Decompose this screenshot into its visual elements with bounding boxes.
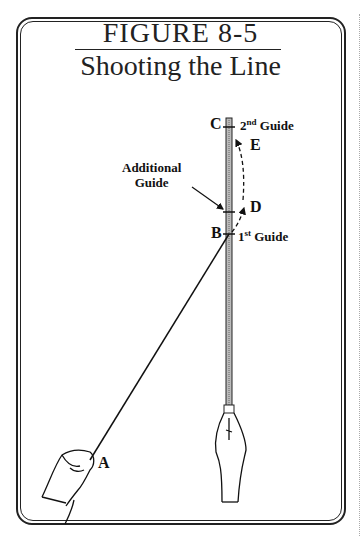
label-additional-guide: AdditionalGuide	[122, 160, 181, 190]
additional-guide-pointer	[192, 187, 223, 209]
label-first-guide: 1st Guide	[238, 228, 288, 245]
right-hand	[215, 413, 246, 502]
left-hand	[42, 450, 94, 524]
label-e: E	[250, 136, 261, 154]
label-d: D	[250, 198, 262, 216]
label-b: B	[211, 224, 222, 242]
label-c: C	[210, 115, 222, 133]
label-second-guide: 2nd Guide	[240, 117, 294, 134]
fly-line	[90, 234, 229, 460]
label-a: A	[98, 454, 110, 472]
diagram-illustration	[0, 0, 361, 536]
path-d-to-c	[236, 140, 244, 200]
fly-rod	[224, 118, 234, 413]
